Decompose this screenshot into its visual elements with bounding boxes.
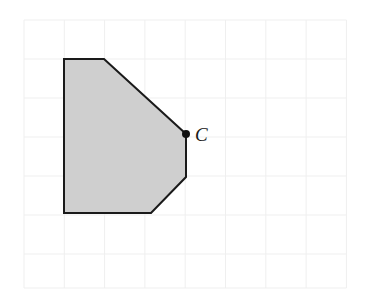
- geometry-figure: C: [0, 0, 365, 296]
- point-c-dot: [182, 130, 190, 138]
- figure-canvas: C: [0, 0, 365, 296]
- point-c-label: C: [195, 124, 208, 145]
